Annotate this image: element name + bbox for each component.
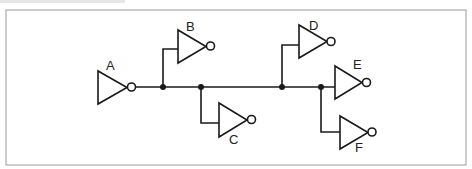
fanout-diagram: A B C D E F: [0, 0, 472, 169]
branch-wire-c: [201, 87, 219, 123]
label-gate-c: C: [229, 132, 238, 147]
junction-dot-d: [279, 84, 285, 90]
label-gate-b: B: [186, 19, 195, 34]
junction-dot-e-f: [318, 84, 324, 90]
label-gate-d: D: [309, 18, 318, 33]
branch-wire-b: [163, 49, 178, 87]
label-gate-f: F: [355, 140, 363, 155]
branch-wire-d: [282, 45, 299, 87]
inverter-gate-b: [178, 30, 215, 63]
label-gate-e: E: [353, 57, 362, 72]
inverter-gate-a: [98, 71, 136, 104]
junction-dot-b: [160, 84, 166, 90]
label-gate-a: A: [106, 58, 115, 73]
junction-dot-c: [198, 84, 204, 90]
